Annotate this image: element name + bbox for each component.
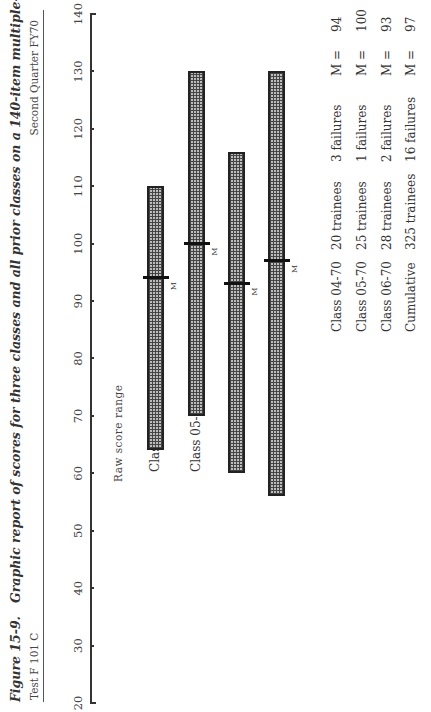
mean-label: M: [210, 247, 219, 255]
axis-tick-label: 140: [71, 3, 85, 25]
mean-marker: [224, 282, 250, 285]
axis-title: Raw score range: [112, 385, 124, 482]
figure-page: Figure 15-9. Graphic report of scores fo…: [0, 0, 431, 712]
legend-name: Cumulative: [404, 262, 418, 332]
score-range-bar: [147, 186, 164, 450]
score-range-bar: [228, 152, 245, 474]
score-range-bar: [268, 71, 285, 496]
axis-tick: [90, 70, 94, 72]
mean-label: M: [290, 265, 299, 273]
legend-name: Class 04-70: [330, 261, 344, 332]
axis-tick: [90, 185, 94, 187]
legend-mval: 93: [380, 17, 394, 32]
axis-tick-label: 70: [71, 409, 85, 424]
mean-marker: [184, 242, 210, 245]
legend-name: Class 05-70: [355, 261, 369, 332]
legend-failures: 16 failures: [404, 97, 418, 162]
test-id: Test F 101 C: [28, 633, 40, 700]
mean-label: M: [169, 282, 178, 290]
axis-tick: [90, 128, 94, 130]
axis-tick: [90, 415, 94, 417]
axis-tick-label: 20: [71, 696, 85, 711]
axis-tick-label: 40: [71, 581, 85, 596]
axis-tick: [90, 472, 94, 474]
axis-tick: [90, 243, 94, 245]
legend-trainees: 25 trainees: [355, 181, 369, 250]
legend-failures: 3 failures: [330, 105, 344, 162]
legend-name: Class 06-70: [380, 261, 394, 332]
axis-tick-label: 60: [71, 466, 85, 481]
axis-tick-label: 100: [71, 233, 85, 255]
axis-tick-label: 130: [71, 60, 85, 82]
axis-tick: [90, 300, 94, 302]
mean-label: M: [250, 288, 259, 296]
axis-tick: [90, 587, 94, 589]
header-rule: [43, 10, 44, 702]
axis-tick-label: 80: [71, 351, 85, 366]
legend-failures: 2 failures: [380, 105, 394, 162]
figure-caption-text: Graphic report of scores for three class…: [8, 0, 23, 603]
legend-trainees: 28 trainees: [380, 181, 394, 250]
axis-tick-label: 50: [71, 523, 85, 538]
legend-trainees: 325 trainees: [404, 174, 418, 250]
figure-caption: Figure 15-9. Graphic report of scores fo…: [8, 0, 23, 702]
axis-tick: [90, 702, 96, 704]
figure-number: Figure 15-9.: [8, 616, 23, 702]
legend-trainees: 20 trainees: [330, 181, 344, 250]
legend-m: M =: [330, 50, 344, 76]
mean-marker: [264, 259, 290, 262]
legend-m: M =: [380, 50, 394, 76]
axis-tick: [90, 645, 94, 647]
axis-tick-label: 90: [71, 294, 85, 309]
period-label: Second Quarter FY70: [28, 20, 40, 135]
legend-failures: 1 failures: [355, 105, 369, 162]
legend-mval: 94: [330, 17, 344, 32]
axis-tick-label: 30: [71, 638, 85, 653]
axis-tick: [90, 530, 94, 532]
axis-tick: [90, 358, 94, 360]
legend-m: M =: [404, 50, 418, 76]
axis-tick-label: 110: [71, 175, 85, 197]
legend-m: M =: [355, 50, 369, 76]
legend-mval: 97: [404, 17, 418, 32]
legend-mval: 100: [355, 9, 369, 32]
axis-tick-label: 120: [71, 118, 85, 140]
axis-tick: [90, 13, 96, 15]
mean-marker: [143, 276, 169, 279]
